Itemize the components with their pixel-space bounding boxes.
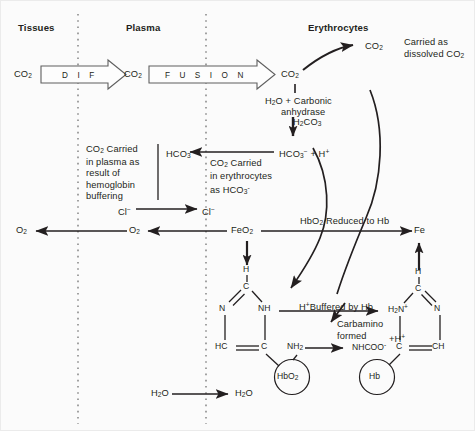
- h2o-rbc-h: H: [235, 388, 242, 398]
- hb-circle-label: Hb: [369, 371, 380, 381]
- annotation-h-buffered-by-hb: H+Buffered by Hb: [299, 299, 373, 313]
- co2-dissolved-sub: 2: [379, 44, 383, 51]
- species-bicarbonate-plasma: HCO3−: [166, 146, 195, 162]
- co2-plasma-sub: 2: [138, 72, 142, 79]
- rbc-bicarb-carried: Carried: [228, 158, 262, 168]
- diagram-canvas: Tissues Plasma Erythrocytes D I F F U S …: [0, 0, 475, 431]
- h2co3-h: H: [293, 117, 300, 127]
- nhcoo-sup: -: [384, 341, 386, 348]
- diffusion-label-dif: D I F: [62, 70, 98, 81]
- hbo2-sub: 2: [295, 374, 299, 381]
- diagram-vector-layer: [0, 0, 475, 431]
- plasma-buffer-l4: hemoglobin: [86, 180, 135, 190]
- feo2-sub: 2: [249, 228, 253, 235]
- diagram-frame: [1, 1, 475, 431]
- species-h2o-plasma: H2O: [151, 388, 169, 401]
- right-ring-top-h: H: [415, 266, 421, 276]
- left-ring-side-nh2: NH2: [287, 341, 303, 351]
- annotation-carried-dissolved-line1: Carried as: [404, 37, 448, 48]
- feo2-main: FeO: [231, 225, 249, 235]
- species-h2co3: H2CO3: [293, 117, 322, 130]
- bond-left-ring-c-to-hbo2: [266, 354, 279, 366]
- annotation-plasma-buffering: CO2 Carried in plasma as result of hemog…: [86, 144, 158, 202]
- right-nh2-sup: +: [404, 303, 408, 310]
- bond-right-ring-c-nh2: [404, 293, 413, 303]
- annotation-hbo2-reduced: HbO2 Reduced to Hb: [300, 216, 389, 229]
- rbc-bicarb-l3-sup: -: [247, 184, 249, 191]
- species-feo2: FeO2: [231, 225, 253, 238]
- carried-dissolved-sub: 2: [461, 52, 465, 59]
- nhcoo-pre: NHCOO: [352, 342, 384, 352]
- right-ring-bottom-c: C: [396, 341, 402, 351]
- right-ring-bottom-ch: CH: [432, 341, 444, 351]
- species-co2-plasma: CO2: [124, 69, 142, 82]
- carbonic-rest: O + Carbonic: [276, 96, 332, 106]
- co2-rbc-main: CO: [281, 69, 295, 79]
- co2-tissues-main: CO: [14, 69, 28, 79]
- carried-dissolved-pre: dissolved CO: [404, 49, 461, 59]
- plasma-buffer-l2: in plasma as: [86, 157, 139, 167]
- h-buffered-post: Buffered by Hb: [310, 302, 373, 312]
- right-ring-top-c: C: [415, 283, 421, 293]
- co2-rbc-sub: 2: [295, 72, 299, 79]
- bond-left-ring-c-nh: [252, 291, 262, 302]
- left-ring-right-nh: NH: [258, 303, 270, 313]
- arrow-co2-to-dissolved: [303, 45, 353, 70]
- curved-arrow-co2-to-carbamino: [337, 90, 380, 294]
- annotation-carbamino-line1: Carbamino: [337, 319, 383, 330]
- left-ring-top-h: H: [243, 264, 249, 274]
- hbo2-circle-label: HbO2: [277, 371, 298, 381]
- left-ring-left-n: N: [219, 303, 225, 313]
- h2o-plasma-h: H: [151, 388, 158, 398]
- o2-tissues-sub: 2: [23, 228, 27, 235]
- column-header-tissues: Tissues: [18, 22, 55, 33]
- nh2-sub: 2: [299, 344, 303, 351]
- hbo2-reduced-pre: HbO: [300, 216, 319, 226]
- bond-right-ring-c-to-hb: [389, 354, 400, 365]
- species-h2o-erythrocyte: H2O: [235, 388, 253, 401]
- diffusion-label-fusion: F U S I O N: [165, 70, 247, 81]
- rbc-bicarb-l3: as HCO: [210, 185, 244, 195]
- annotation-erythrocyte-bicarbonate: CO2 Carried in erythrocytes as HCO3-: [210, 158, 302, 198]
- right-ring-right-n: N: [434, 303, 440, 313]
- nh2-pre: NH: [287, 341, 299, 351]
- rbc-bicarb-co: CO: [210, 158, 224, 168]
- species-co2-erythrocyte: CO2: [281, 69, 299, 82]
- left-ring-top-c: C: [243, 281, 249, 291]
- hbo2-pre: HbO: [277, 371, 295, 381]
- co2-plasma-main: CO: [124, 69, 138, 79]
- species-fe: Fe: [414, 225, 425, 236]
- column-header-erythrocytes: Erythrocytes: [308, 22, 368, 33]
- annotation-carried-dissolved-line2: dissolved CO2: [404, 49, 464, 62]
- carbonic-h: H: [265, 96, 272, 106]
- h2o-plasma-o: O: [162, 388, 169, 398]
- left-ring-bottom-hc: HC: [215, 341, 227, 351]
- species-o2-tissues: O2: [16, 225, 27, 238]
- species-co2-dissolved: CO2: [365, 41, 383, 54]
- column-header-plasma: Plasma: [126, 22, 161, 33]
- right-ring-side-nhcoo: NHCOO-: [352, 341, 386, 352]
- plasma-buffer-l3: result of: [86, 168, 120, 178]
- right-ring-left-nh2: H2N+: [388, 303, 408, 314]
- species-chloride-erythrocyte: Cl−: [202, 204, 215, 218]
- h-buffered-pre: H: [299, 302, 306, 312]
- h2o-rbc-o: O: [246, 388, 253, 398]
- rbc-bicarb-l2: in erythrocytes: [210, 171, 272, 181]
- co2-tissues-sub: 2: [28, 72, 32, 79]
- plasma-buffer-l5: buffering: [86, 191, 123, 201]
- co2-dissolved-main: CO: [365, 41, 379, 51]
- species-chloride-plasma: Cl−: [118, 204, 131, 218]
- left-ring-bottom-c: C: [261, 341, 267, 351]
- h2co3-co-sub: 3: [318, 120, 322, 127]
- hbo2-reduced-post: Reduced to Hb: [323, 216, 389, 226]
- h2co3-co: CO: [304, 117, 318, 127]
- plasma-buffer-co: CO: [86, 144, 100, 154]
- o2-plasma-sub: 2: [136, 228, 140, 235]
- plasma-buffer-carried: Carried: [104, 144, 138, 154]
- species-o2-plasma: O2: [129, 225, 140, 238]
- species-co2-tissues: CO2: [14, 69, 32, 82]
